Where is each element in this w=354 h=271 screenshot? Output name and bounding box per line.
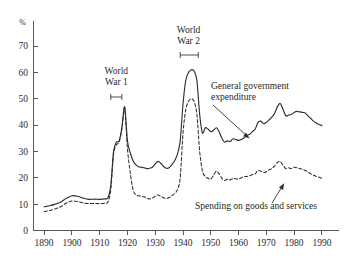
x-tick-label: 1990 — [312, 238, 331, 248]
y-axis-unit-label: % — [19, 18, 26, 27]
x-tick-label: 1910 — [90, 238, 109, 248]
x-tick-label: 1950 — [201, 238, 220, 248]
ww1-span-bracket — [111, 94, 122, 100]
x-tick-label: 1900 — [62, 238, 81, 248]
y-tick-label: 30 — [19, 147, 29, 157]
chart-figure: 010203040506070%189019001910192019301940… — [0, 0, 354, 271]
sgs-label: Spending on goods and services — [195, 201, 317, 211]
gge-arrow-line — [213, 105, 248, 137]
ww2-span-bracket — [180, 52, 198, 58]
ww2-label-line2: War 2 — [177, 36, 200, 46]
ww1-label-line1: World — [105, 66, 129, 76]
y-tick-label: 70 — [19, 41, 29, 51]
x-tick-label: 1940 — [174, 238, 193, 248]
y-tick-label: 60 — [19, 68, 29, 78]
y-tick-label: 10 — [19, 200, 29, 210]
x-tick-label: 1890 — [35, 238, 54, 248]
x-tick-label: 1920 — [118, 238, 137, 248]
y-tick-label: 20 — [19, 173, 29, 183]
y-tick-label: 40 — [19, 120, 29, 130]
x-tick-label: 1980 — [285, 238, 304, 248]
ww2-label-line1: World — [177, 25, 201, 35]
x-tick-label: 1930 — [146, 238, 165, 248]
gge-label-line2: expenditure — [211, 92, 256, 102]
ww1-label-line2: War 1 — [105, 77, 128, 87]
y-tick-label: 50 — [19, 94, 29, 104]
x-tick-label: 1960 — [229, 238, 248, 248]
chart-annotations: WorldWar 1WorldWar 2General governmentex… — [105, 25, 318, 211]
series-line-spending-goods-services — [44, 99, 322, 212]
gge-label-line1: General government — [211, 81, 289, 91]
y-tick-label: 0 — [23, 226, 28, 236]
sgs-arrow-head — [279, 183, 284, 190]
x-tick-label: 1970 — [257, 238, 276, 248]
chart-tick-labels: 010203040506070%189019001910192019301940… — [19, 18, 332, 248]
line-chart-svg: 010203040506070%189019001910192019301940… — [0, 0, 354, 271]
